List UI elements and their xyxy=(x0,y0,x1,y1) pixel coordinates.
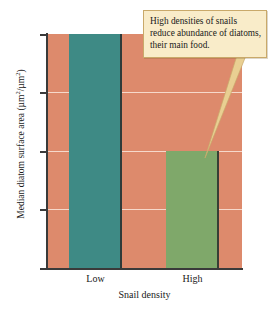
y-axis-title-mid: /µm xyxy=(16,76,26,92)
bar-high-edge xyxy=(217,151,219,268)
y-axis-title: Median diatom surface area (µm2/µm2) xyxy=(14,39,26,249)
x-axis-title: Snail density xyxy=(47,289,242,300)
bar-low-edge xyxy=(120,34,122,268)
y-axis-title-sup-2: 2 xyxy=(14,73,21,76)
x-axis-line xyxy=(46,268,243,270)
bar-low-face xyxy=(69,34,122,268)
x-tick-label-high: High xyxy=(166,273,219,284)
annotation-callout-text: High densities of snails reduce abundanc… xyxy=(150,16,261,50)
annotation-callout: High densities of snails reduce abundanc… xyxy=(143,10,267,58)
plot-area xyxy=(47,34,242,268)
x-tick-label-low: Low xyxy=(69,273,122,284)
y-axis-title-end: ) xyxy=(16,69,26,72)
y-axis-title-sup-1: 2 xyxy=(14,91,21,94)
bar-chart-figure: 4 3 2 1 0 Median diatom surface area (µm… xyxy=(0,0,277,309)
y-axis-title-text: Median diatom surface area (µm xyxy=(16,95,26,219)
bar-high-face xyxy=(166,151,219,268)
y-axis-line xyxy=(46,33,48,269)
bar-low[interactable] xyxy=(69,34,122,268)
bar-high[interactable] xyxy=(166,151,219,268)
